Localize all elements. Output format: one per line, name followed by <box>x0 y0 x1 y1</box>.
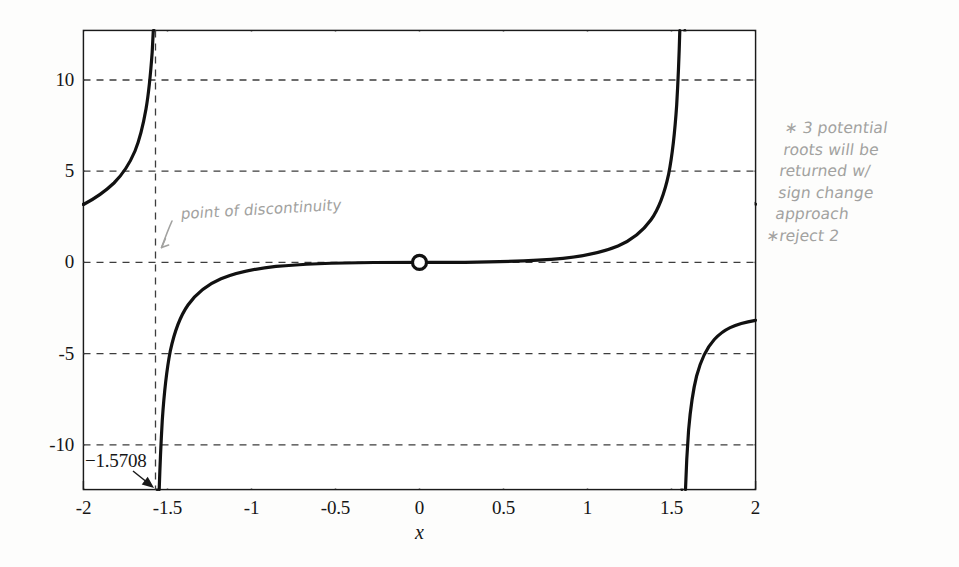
figure-root: -2 -1.5 -1 -0.5 0 0.5 1 1.5 2 10 5 0 -5 … <box>0 0 959 567</box>
note-line-5: approach <box>774 204 877 226</box>
x-tick-label--2: -2 <box>76 497 91 519</box>
note-line-2: roots will be <box>782 140 886 162</box>
x-tick-label--0.5: -0.5 <box>321 497 350 519</box>
root-open-circle-marker <box>413 255 427 269</box>
plot-canvas <box>0 0 959 567</box>
y-tick-label--5: -5 <box>26 343 74 365</box>
note-line-1: ∗ 3 potential <box>783 118 889 140</box>
x-tick-label-0.5: 0.5 <box>492 497 515 519</box>
asymptote-value-label: −1.5708 <box>85 450 147 472</box>
x-tick-label-1.5: 1.5 <box>660 497 683 519</box>
y-tick-label-10: 10 <box>36 69 74 91</box>
note-line-3: returned w/ <box>778 161 883 183</box>
x-tick-label-0: 0 <box>415 497 424 519</box>
note-line-6: ∗reject 2 <box>765 226 874 248</box>
x-tick-label--1: -1 <box>244 497 259 519</box>
x-tick-label-2: 2 <box>751 497 760 519</box>
y-tick-label--10: -10 <box>26 434 74 456</box>
y-tick-label-5: 5 <box>36 160 74 182</box>
y-tick-label-0: 0 <box>36 251 74 273</box>
x-tick-label-1: 1 <box>583 497 592 519</box>
x-axis-title: x <box>415 521 424 544</box>
annotation-sidebar-note: ∗ 3 potential roots will be returned w/ … <box>768 118 889 247</box>
x-tick-label--1.5: -1.5 <box>153 497 182 519</box>
note-line-4: sign change <box>777 183 880 205</box>
